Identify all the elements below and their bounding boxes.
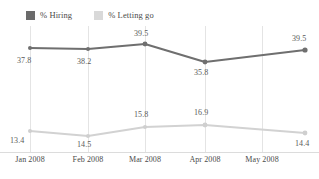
value-label-letting-go-3: 16.9	[194, 108, 208, 117]
value-label-letting-go-2: 15.8	[134, 110, 148, 119]
line-chart: % Hiring % Letting go	[0, 0, 319, 179]
x-tick-label-0: Jan 2008	[15, 155, 44, 165]
series-markers-hiring	[28, 42, 308, 65]
value-label-hiring-0: 37.8	[17, 56, 31, 65]
legend-swatch-hiring	[26, 11, 35, 20]
chart-legend: % Hiring % Letting go	[26, 8, 154, 22]
legend-item-letting-go[interactable]: % Letting go	[94, 11, 154, 20]
legend-item-hiring[interactable]: % Hiring	[26, 11, 72, 20]
x-tick-label-1: Feb 2008	[73, 155, 104, 165]
x-tick-label-2: Mar 2008	[129, 155, 161, 165]
legend-label-letting-go: % Letting go	[108, 11, 154, 20]
x-tick-label-4: May 2008	[245, 155, 278, 165]
series-line-letting-go	[30, 125, 305, 136]
value-label-letting-go-1: 14.5	[77, 140, 91, 149]
series-line-hiring	[30, 44, 305, 62]
plot-area: 37.8 38.2 39.5 35.8 39.5 13.4 14.5 15.8 …	[0, 26, 319, 153]
value-label-hiring-2: 39.5	[134, 29, 148, 38]
value-label-hiring-3: 35.8	[194, 68, 208, 77]
value-label-letting-go-4: 14.4	[295, 139, 309, 148]
x-tick-label-3: Apr 2008	[189, 155, 220, 165]
x-axis: Jan 2008 Feb 2008 Mar 2008 Apr 2008 May …	[0, 155, 319, 175]
legend-swatch-letting-go	[94, 11, 103, 20]
legend-label-hiring: % Hiring	[40, 11, 72, 20]
value-label-letting-go-0: 13.4	[10, 136, 24, 145]
value-label-hiring-4: 39.5	[292, 34, 306, 43]
value-label-hiring-1: 38.2	[77, 57, 91, 66]
